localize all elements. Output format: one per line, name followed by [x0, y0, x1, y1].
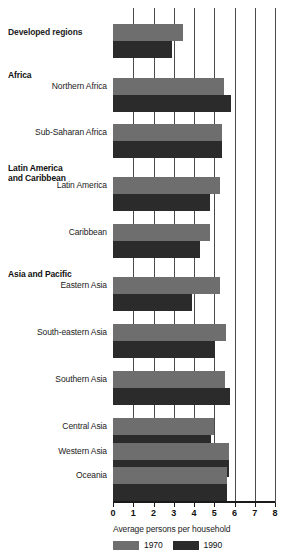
row-label-5: Eastern Asia: [3, 280, 107, 290]
row-label-8: Central Asia: [3, 421, 107, 431]
legend-swatch-1970: [113, 541, 139, 550]
row-label-6: South-eastern Asia: [3, 327, 107, 337]
row-label-0: Developed regions: [8, 27, 128, 37]
group-header-2: Asia and Pacific: [8, 269, 72, 279]
tick-mark-4: [194, 503, 195, 507]
bar-1970-10: [113, 467, 227, 484]
bar-1990-5: [113, 294, 192, 311]
group-header-1: Latin America and Caribbean: [8, 163, 66, 183]
tick-mark-5: [214, 503, 215, 507]
row-label-7: Southern Asia: [3, 374, 107, 384]
tick-label-8: 8: [265, 508, 285, 518]
bar-1990-6: [113, 341, 215, 358]
chart-page: Developed regionsNorthern AfricaSub-Saha…: [0, 0, 289, 553]
bar-1990-3: [113, 194, 210, 211]
tick-mark-6: [235, 503, 236, 507]
group-header-0: Africa: [8, 70, 32, 80]
row-label-10: Oceania: [3, 470, 107, 480]
legend-item-1990: 1990: [173, 540, 223, 550]
bar-1990-2: [113, 141, 222, 158]
bar-1990-4: [113, 241, 200, 258]
legend-label-1990: 1990: [204, 540, 223, 550]
bar-1990-1: [113, 95, 231, 112]
row-label-9: Western Asia: [3, 446, 107, 456]
bar-1970-4: [113, 224, 210, 241]
bar-1970-9: [113, 443, 229, 460]
tick-label-3: 3: [164, 508, 184, 518]
x-axis-title: Average persons per household: [113, 524, 230, 534]
bar-1970-7: [113, 371, 225, 388]
tick-label-5: 5: [204, 508, 224, 518]
tick-label-4: 4: [184, 508, 204, 518]
bar-1970-3: [113, 177, 220, 194]
legend-label-1970: 1970: [144, 540, 163, 550]
tick-mark-2: [154, 503, 155, 507]
row-label-2: Sub-Saharan Africa: [3, 127, 107, 137]
bar-1990-7: [113, 388, 230, 405]
chart-legend: 19701990: [113, 540, 222, 550]
bar-1970-5: [113, 277, 220, 294]
tick-label-6: 6: [225, 508, 245, 518]
x-axis-ticks: 012345678: [0, 503, 289, 525]
tick-mark-0: [113, 503, 114, 507]
bar-1970-6: [113, 324, 226, 341]
tick-label-1: 1: [123, 508, 143, 518]
bar-1970-8: [113, 418, 214, 435]
bar-1970-1: [113, 78, 224, 95]
row-label-4: Caribbean: [3, 227, 107, 237]
tick-mark-1: [133, 503, 134, 507]
tick-mark-3: [174, 503, 175, 507]
legend-swatch-1990: [173, 541, 199, 550]
row-label-1: Northern Africa: [3, 81, 107, 91]
legend-item-1970: 1970: [113, 540, 163, 550]
bar-1970-0: [113, 24, 183, 41]
plot-area: Developed regionsNorthern AfricaSub-Saha…: [0, 0, 289, 503]
bar-1990-0: [113, 41, 172, 58]
tick-mark-8: [275, 503, 276, 507]
tick-label-2: 2: [144, 508, 164, 518]
bar-1970-2: [113, 124, 222, 141]
tick-label-7: 7: [245, 508, 265, 518]
tick-mark-7: [255, 503, 256, 507]
tick-label-0: 0: [103, 508, 123, 518]
bar-rows: Developed regionsNorthern AfricaSub-Saha…: [0, 0, 289, 503]
bar-1990-10: [113, 484, 227, 501]
